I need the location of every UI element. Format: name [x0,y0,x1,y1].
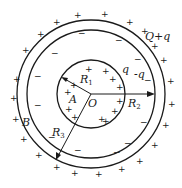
r2-label: R2 [127,97,141,111]
svg-text:+: + [101,9,109,19]
svg-text:−: − [34,100,42,110]
center-o-label: O [88,97,97,110]
svg-text:+: + [126,17,134,27]
svg-text:−: − [115,35,123,45]
svg-text:+: + [95,169,103,179]
svg-text:−: − [34,71,42,81]
svg-text:−: − [51,48,59,58]
r1-label: R1 [79,73,93,87]
svg-text:+: + [118,164,126,174]
svg-text:+: + [162,120,170,130]
svg-text:+: + [64,87,72,97]
svg-text:+: + [151,140,159,150]
svg-text:+: + [71,168,79,178]
svg-text:+: + [85,64,93,74]
svg-text:+: + [37,29,45,39]
svg-text:+: + [167,76,175,86]
svg-text:−: − [113,147,121,157]
svg-text:+: + [20,134,28,144]
svg-text:+: + [111,106,119,116]
svg-text:+: + [35,150,43,160]
svg-text:+: + [74,10,82,20]
svg-text:−: − [78,28,86,38]
svg-text:+: + [141,26,149,36]
svg-text:+: + [136,156,144,166]
region-b-label: B [21,116,30,129]
svg-text:−: − [74,145,82,155]
svg-text:+: + [116,96,124,106]
svg-text:−: − [124,138,132,148]
svg-text:+: + [13,74,21,84]
svg-text:+: + [151,41,159,51]
svg-text:+: + [71,112,79,122]
spheres-diagram: R1 q A O R2 -q Q+q R3 B +++ +++ +++ +++ … [0,0,182,188]
svg-text:+: + [10,93,18,103]
svg-text:+: + [102,116,110,126]
svg-text:−: − [140,117,148,127]
svg-text:+: + [12,114,20,124]
svg-text:+: + [53,17,61,27]
svg-text:−: − [48,132,56,142]
svg-text:+: + [168,99,176,109]
svg-text:−: − [134,54,142,64]
inner-charge-label: q [122,63,129,76]
svg-text:−: − [144,75,152,85]
svg-text:+: + [160,55,168,65]
svg-text:+: + [22,45,30,55]
svg-text:+: + [116,82,124,92]
svg-text:+: + [53,162,61,172]
